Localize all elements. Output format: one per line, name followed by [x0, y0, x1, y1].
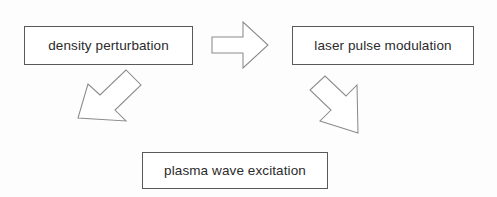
node-label-density-perturbation: density perturbation [48, 39, 169, 53]
node-density-perturbation: density perturbation [24, 26, 193, 65]
node-label-laser-pulse-modulation: laser pulse modulation [314, 39, 451, 53]
node-laser-pulse-modulation: laser pulse modulation [292, 26, 474, 65]
node-label-plasma-wave-excitation: plasma wave excitation [164, 164, 306, 178]
arrow-up-left-icon [78, 70, 141, 121]
node-plasma-wave-excitation: plasma wave excitation [142, 152, 328, 189]
arrow-down-left-icon [310, 76, 358, 133]
diagram-canvas: density perturbation laser pulse modulat… [0, 0, 497, 197]
arrow-right-icon [212, 22, 268, 68]
